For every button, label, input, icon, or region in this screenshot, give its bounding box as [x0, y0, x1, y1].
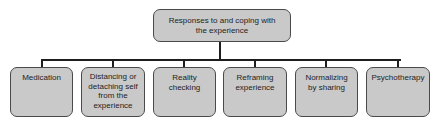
node-label-line: Distancing or: [82, 72, 144, 82]
node-reality-checking: Reality checking: [153, 67, 216, 117]
node-label-line: by sharing: [296, 83, 357, 93]
child-connector-distancing: [112, 59, 114, 67]
node-label-line: detaching self: [82, 82, 144, 92]
node-label-line: checking: [154, 83, 215, 93]
node-label: Psychotherapy: [367, 73, 429, 83]
node-label-line: experience: [82, 101, 144, 111]
node-normalizing-by-sharing: Normalizing by sharing: [295, 67, 358, 117]
child-connector-reality: [183, 59, 185, 67]
node-label-line: from the: [82, 91, 144, 101]
node-label-line: Reframing: [224, 73, 286, 83]
child-connector-normalizing: [325, 59, 327, 67]
child-connector-reframing: [254, 59, 256, 67]
node-label: Medication: [11, 73, 72, 83]
node-label-line: Reality: [154, 73, 215, 83]
child-connector-medication: [41, 59, 43, 67]
node-label-line: Normalizing: [296, 73, 357, 83]
node-reframing-experience: Reframing experience: [223, 67, 287, 117]
child-connector-psychotherapy: [397, 59, 399, 67]
root-node-line-1: Responses to and coping with: [154, 16, 290, 26]
node-label-line: experience: [224, 83, 286, 93]
root-node-line-2: the experience: [154, 26, 290, 36]
node-medication: Medication: [10, 67, 73, 117]
node-distancing: Distancing or detaching self from the ex…: [81, 67, 145, 117]
horizontal-bus-connector: [41, 59, 401, 61]
node-psychotherapy: Psychotherapy: [366, 67, 430, 117]
root-node: Responses to and coping with the experie…: [153, 9, 291, 42]
